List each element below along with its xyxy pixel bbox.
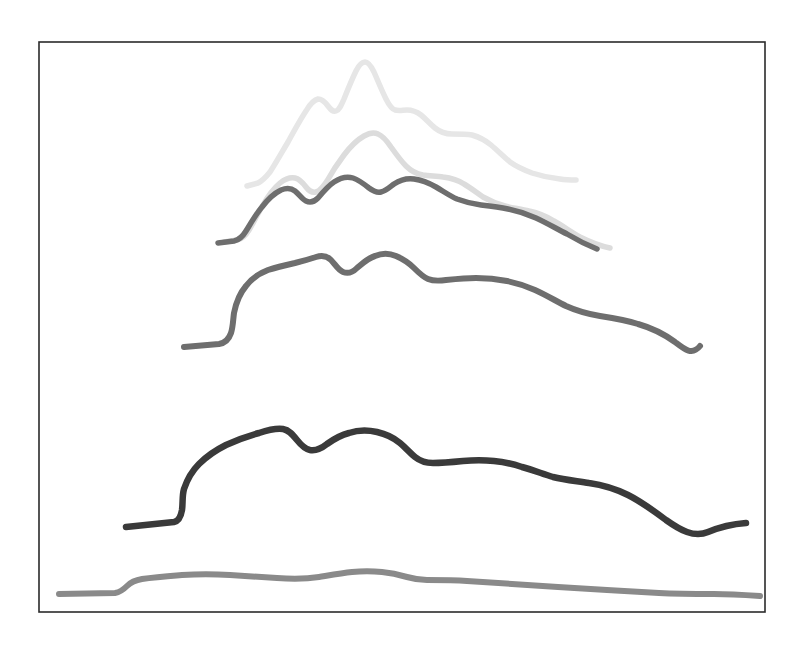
contour-5-dark [126,429,746,534]
figure-canvas [0,0,807,649]
contour-diagram [0,0,807,649]
contour-series-group [59,62,760,596]
contour-4-large [184,254,700,351]
contour-6-baseline [59,571,760,596]
